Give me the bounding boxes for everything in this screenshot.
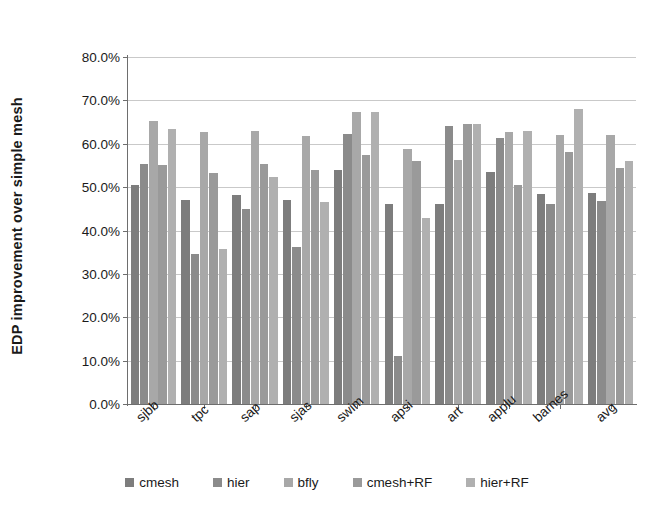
bar-bfly-swim <box>352 112 360 404</box>
bar-hier-rf-sjbb <box>168 129 176 404</box>
bar-cmesh-rf-art <box>463 124 471 404</box>
bar-hier-rf-tpc <box>219 249 227 404</box>
bar-group <box>230 57 281 404</box>
legend-item-bfly[interactable]: bfly <box>284 475 319 490</box>
x-tick-cell: art <box>433 406 484 462</box>
legend-label: cmesh+RF <box>367 475 433 490</box>
bar-group <box>433 57 484 404</box>
bar-group <box>484 57 535 404</box>
bar-hier-rf-art <box>473 124 481 404</box>
bar-bfly-sjas <box>302 136 310 404</box>
bar-hier-barnes <box>546 204 554 404</box>
x-tick-cell: sap <box>230 406 281 462</box>
bar-hier-rf-avg <box>625 161 633 404</box>
bar-cmesh-sjbb <box>131 185 139 404</box>
y-tick-label: 60.0% <box>82 136 120 151</box>
bar-group <box>280 57 331 404</box>
y-tick-label: 80.0% <box>82 50 120 65</box>
x-tick-cell: sjas <box>280 406 331 462</box>
legend-swatch-icon <box>125 478 134 487</box>
x-tick-cell: swim <box>331 406 382 462</box>
bar-cmesh-sap <box>232 195 240 404</box>
bar-hier-tpc <box>191 254 199 405</box>
bar-cmesh-rf-sjas <box>311 170 319 404</box>
bar-cmesh-rf-swim <box>362 155 370 404</box>
bar-bfly-avg <box>606 135 614 404</box>
x-tick-cell: tpc <box>179 406 230 462</box>
bar-hier-rf-applu <box>523 131 531 404</box>
plot-area <box>128 57 636 404</box>
bar-group <box>382 57 433 404</box>
legend-label: hier <box>227 475 250 490</box>
legend-label: cmesh <box>139 475 179 490</box>
bar-cmesh-rf-barnes <box>565 152 573 404</box>
bar-hier-swim <box>343 134 351 404</box>
bar-hier-rf-sjas <box>320 202 328 404</box>
bar-group <box>534 57 585 404</box>
bar-hier-sap <box>242 209 250 404</box>
bar-cmesh-tpc <box>181 200 189 404</box>
bar-bfly-tpc <box>200 132 208 404</box>
legend-swatch-icon <box>353 478 362 487</box>
bar-cmesh-sjas <box>283 200 291 404</box>
bar-hier-sjbb <box>140 164 148 404</box>
y-axis-tick-labels: 80.0%70.0%60.0%50.0%40.0%30.0%20.0%10.0%… <box>40 57 120 404</box>
x-tick-cell: apsi <box>382 406 433 462</box>
legend-item-cmesh[interactable]: cmesh <box>125 475 179 490</box>
bar-hier-art <box>445 126 453 404</box>
bar-cmesh-rf-sjbb <box>158 165 166 404</box>
bar-hier-avg <box>597 201 605 404</box>
bar-bfly-applu <box>505 132 513 404</box>
bar-group <box>179 57 230 404</box>
y-tick-mark <box>123 404 128 405</box>
y-tick-label: 10.0% <box>82 353 120 368</box>
bar-cmesh-swim <box>334 170 342 404</box>
y-tick-label: 20.0% <box>82 310 120 325</box>
bar-cmesh-apsi <box>385 204 393 404</box>
bar-groups <box>128 57 636 404</box>
y-tick-label: 50.0% <box>82 180 120 195</box>
bar-cmesh-rf-applu <box>514 185 522 404</box>
x-axis-tick-labels: sjbbtpcsapsjasswimapsiartapplubarnesavg <box>128 406 636 462</box>
bar-cmesh-rf-apsi <box>412 161 420 404</box>
bar-hier-rf-sap <box>269 177 277 404</box>
x-tick-cell: sjbb <box>128 406 179 462</box>
legend-swatch-icon <box>466 478 475 487</box>
legend-label: bfly <box>298 475 319 490</box>
x-tick-label: tpc <box>188 402 211 425</box>
bar-cmesh-rf-avg <box>616 168 624 404</box>
legend-item-cmesh-rf[interactable]: cmesh+RF <box>353 475 433 490</box>
legend-swatch-icon <box>213 478 222 487</box>
legend-swatch-icon <box>284 478 293 487</box>
legend-label: hier+RF <box>480 475 528 490</box>
bar-cmesh-applu <box>486 172 494 404</box>
bar-cmesh-avg <box>588 193 596 404</box>
bar-bfly-sjbb <box>149 121 157 404</box>
bar-hier-rf-barnes <box>574 109 582 404</box>
bar-cmesh-rf-sap <box>260 164 268 404</box>
bar-hier-rf-apsi <box>422 218 430 404</box>
bar-hier-sjas <box>292 247 300 404</box>
legend-item-hier[interactable]: hier <box>213 475 250 490</box>
chart-legend: cmeshhierbflycmesh+RFhier+RF <box>0 470 654 494</box>
bar-bfly-barnes <box>556 135 564 404</box>
bar-bfly-apsi <box>403 149 411 404</box>
bar-hier-rf-swim <box>371 112 379 404</box>
y-tick-label: 30.0% <box>82 266 120 281</box>
x-tick-cell: applu <box>484 406 535 462</box>
bar-hier-apsi <box>394 356 402 404</box>
bar-cmesh-art <box>435 204 443 404</box>
y-tick-label: 40.0% <box>82 223 120 238</box>
bar-group <box>331 57 382 404</box>
bar-cmesh-barnes <box>537 194 545 404</box>
y-axis-title: EDP improvement over simple mesh <box>6 46 28 406</box>
x-tick-label: art <box>444 403 466 425</box>
bar-cmesh-rf-tpc <box>209 173 217 404</box>
x-tick-cell: barnes <box>534 406 585 462</box>
bar-bfly-sap <box>251 131 259 404</box>
bar-bfly-art <box>454 160 462 404</box>
bar-hier-applu <box>496 138 504 404</box>
legend-item-hier-rf[interactable]: hier+RF <box>466 475 528 490</box>
bar-group <box>128 57 179 404</box>
x-tick-cell: avg <box>585 406 636 462</box>
